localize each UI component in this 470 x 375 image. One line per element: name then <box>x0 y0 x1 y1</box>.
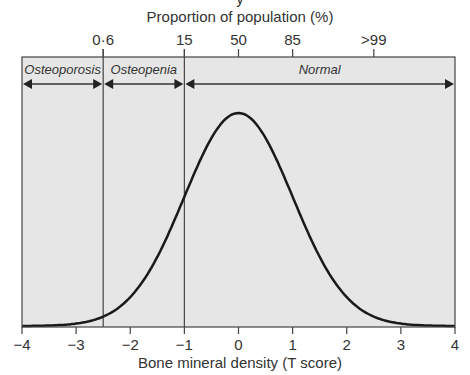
x-tick-label: −4 <box>13 336 30 353</box>
x-tick-label: 0 <box>234 336 242 353</box>
plot-background <box>22 57 455 327</box>
chart: y Proportion of population (%) 0·6155085… <box>0 0 470 375</box>
x-tick-label: −2 <box>122 336 139 353</box>
top-tick-label: 85 <box>284 31 301 48</box>
x-tick-label: 2 <box>343 336 351 353</box>
x-tick-label: 1 <box>288 336 296 353</box>
top-tick-label: >99 <box>361 31 386 48</box>
x-tick-label: 3 <box>397 336 405 353</box>
top-axis-title: Proportion of population (%) <box>147 8 334 25</box>
bottom-ticks: −4−3−2−101234 <box>13 327 459 353</box>
top-tick-label: 0·6 <box>92 31 114 48</box>
region-label: Osteoporosis <box>24 62 101 77</box>
top-tick-label: 50 <box>230 31 247 48</box>
region-label: Normal <box>299 62 342 77</box>
region-label: Osteopenia <box>111 62 178 77</box>
x-tick-label: −1 <box>176 336 193 353</box>
x-tick-label: −3 <box>68 336 85 353</box>
x-tick-label: 4 <box>451 336 459 353</box>
top-partial-text: y <box>236 0 244 7</box>
top-ticks: 0·6155085>99 <box>92 31 386 57</box>
x-axis-title: Bone mineral density (T score) <box>138 354 342 371</box>
top-tick-label: 15 <box>176 31 193 48</box>
